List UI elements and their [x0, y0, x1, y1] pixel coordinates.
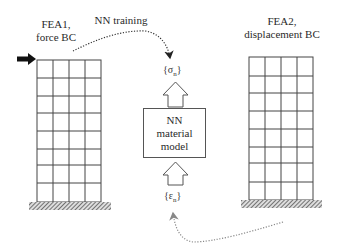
fea1-title-line2: force BC: [28, 31, 84, 44]
box-line-2: material: [156, 127, 192, 140]
displacement-feedback-dotted-arrow: [173, 213, 283, 242]
fea2-title-line1: FEA2,: [232, 15, 332, 28]
force-arrow-icon: [17, 53, 36, 65]
stress-subscript: n: [173, 70, 177, 78]
input-up-arrow-icon: [163, 162, 188, 185]
right-ground-support: [241, 200, 322, 208]
stress-vector-label: {σn}: [163, 64, 182, 80]
box-line-3: model: [161, 140, 189, 153]
strain-vector-label: {εn}: [164, 190, 181, 206]
right-mesh-grid: [249, 57, 313, 200]
fea2-title: FEA2, displacement BC: [232, 15, 332, 41]
strain-subscript: n: [173, 196, 177, 204]
box-line-1: NN: [167, 114, 183, 127]
nn-training-dotted-arrow: [73, 31, 170, 58]
left-mesh-grid: [37, 60, 101, 202]
left-ground-support: [29, 202, 111, 210]
fea2-title-line2: displacement BC: [232, 28, 332, 41]
nn-training-label: NN training: [88, 14, 154, 27]
fea1-title: FEA1, force BC: [28, 18, 84, 44]
output-up-arrow-icon: [163, 82, 188, 107]
fea1-title-line1: FEA1,: [28, 18, 84, 31]
nn-material-model-box: NN material model: [143, 108, 206, 158]
